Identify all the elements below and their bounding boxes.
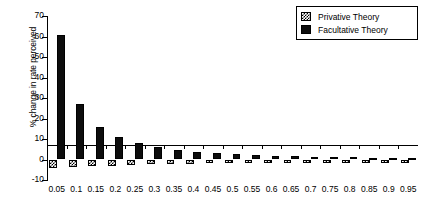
bar-privative (108, 160, 116, 166)
bar-privative (206, 160, 214, 164)
x-tick-mark (106, 145, 107, 149)
bar-privative (381, 160, 389, 163)
x-tick-label: 0.35 (166, 184, 183, 194)
bar-facultative (115, 137, 123, 160)
legend-item-facultative: Facultative Theory (301, 23, 413, 36)
x-tick-mark (359, 145, 360, 149)
plot-area: -10010203040506070 0.050.10.150.20.250.3… (47, 16, 418, 180)
bar-privative (245, 160, 253, 163)
bar-privative (186, 160, 194, 164)
bar-privative (284, 160, 292, 163)
bar-facultative (389, 158, 397, 160)
bar-privative (303, 160, 311, 163)
y-tick-label: 60 (35, 31, 44, 41)
x-tick-mark (379, 145, 380, 149)
x-tick-label: 0.1 (70, 184, 82, 194)
bar-facultative (252, 155, 260, 160)
legend-label-facultative: Facultative Theory (318, 25, 388, 35)
x-tick-label: 0.85 (361, 184, 378, 194)
bar-facultative (233, 154, 241, 159)
bar-facultative (174, 150, 182, 160)
bar-privative (342, 160, 350, 163)
x-tick-label: 0.8 (344, 184, 356, 194)
bar-facultative (135, 143, 143, 159)
chart-legend: Privative Theory Facultative Theory (296, 6, 418, 40)
bar-privative (147, 160, 155, 165)
x-tick-label: 0.5 (227, 184, 239, 194)
bar-facultative (193, 152, 201, 160)
bar-privative (225, 160, 233, 163)
x-tick-label: 0.4 (188, 184, 200, 194)
y-tick-label: 50 (35, 51, 44, 61)
y-tick-label: 10 (35, 133, 44, 143)
x-tick-mark (67, 145, 68, 149)
y-tick-label: 70 (35, 10, 44, 20)
chart-figure: % change in rate perceived -100102030405… (0, 0, 426, 208)
x-tick-mark (145, 145, 146, 149)
bar-facultative (76, 104, 84, 159)
x-tick-mark (281, 145, 282, 149)
bar-facultative (96, 127, 104, 160)
bar-facultative (311, 157, 319, 160)
bar-privative (88, 160, 96, 167)
x-tick-label: 0.7 (305, 184, 317, 194)
legend-swatch-hatched-icon (301, 12, 311, 21)
x-tick-label: 0.95 (400, 184, 417, 194)
x-tick-mark (164, 145, 165, 149)
x-tick-label: 0.3 (148, 184, 160, 194)
bar-facultative (350, 157, 358, 159)
bar-privative (69, 160, 77, 167)
y-tick-label: 30 (35, 92, 44, 102)
y-tick-label: 0 (39, 154, 44, 164)
legend-label-privative: Privative Theory (318, 12, 379, 22)
x-tick-label: 0.2 (109, 184, 121, 194)
x-tick-mark (242, 145, 243, 149)
y-tick-label: -10 (32, 174, 44, 184)
bar-facultative (291, 156, 299, 159)
x-tick-label: 0.9 (383, 184, 395, 194)
x-tick-mark (223, 145, 224, 149)
bar-privative (49, 160, 57, 168)
bar-privative (127, 160, 135, 166)
x-tick-label: 0.6 (266, 184, 278, 194)
bar-facultative (272, 156, 280, 160)
x-tick-label: 0.65 (283, 184, 300, 194)
bar-facultative (213, 153, 221, 159)
x-tick-mark (184, 145, 185, 149)
x-tick-mark (47, 145, 48, 149)
x-tick-label: 0.55 (244, 184, 261, 194)
bar-privative (362, 160, 370, 163)
bar-facultative (330, 157, 338, 159)
bar-facultative (57, 35, 65, 159)
x-tick-mark (301, 145, 302, 149)
x-tick-mark (262, 145, 263, 149)
y-tick-label: 20 (35, 113, 44, 123)
bar-privative (167, 160, 175, 165)
x-tick-label: 0.25 (127, 184, 144, 194)
x-tick-label: 0.05 (48, 184, 65, 194)
x-tick-mark (340, 145, 341, 149)
bar-privative (323, 160, 331, 163)
x-tick-label: 0.15 (88, 184, 105, 194)
x-tick-mark (320, 145, 321, 149)
legend-swatch-solid-icon (301, 25, 311, 34)
x-tick-label: 0.75 (322, 184, 339, 194)
y-tick-label: 40 (35, 72, 44, 82)
legend-item-privative: Privative Theory (301, 10, 413, 23)
bar-facultative (154, 147, 162, 159)
x-tick-mark (203, 145, 204, 149)
bar-privative (264, 160, 272, 163)
bar-facultative (369, 158, 377, 160)
bar-facultative (408, 158, 416, 160)
x-tick-label: 0.45 (205, 184, 222, 194)
x-tick-mark (86, 145, 87, 149)
x-tick-mark (125, 145, 126, 149)
x-tick-mark (398, 145, 399, 149)
